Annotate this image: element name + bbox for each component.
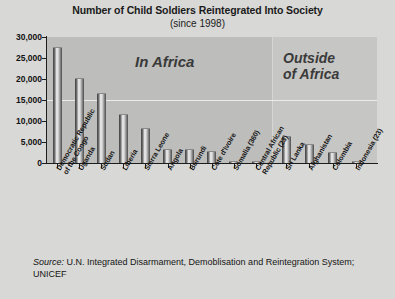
y-axis-tick-label: 0 [0,159,42,168]
category-labels: Democratic Republicof the CongoUgandaSud… [47,168,387,263]
y-axis-labels: 05,00010,00015,00020,00025,00030,000 [0,0,42,299]
y-axis-tick [42,163,47,164]
bar [97,93,106,163]
page-title: Number of Child Soldiers Reintegrated In… [0,4,395,17]
y-axis-tick-label: 15,000 [0,96,42,105]
chart-subtitle: (since 1998) [0,17,395,30]
source-note: Source: U.N. Integrated Disarmament, Dem… [33,256,383,280]
y-axis-tick-label: 5,000 [0,138,42,147]
chart-page: Number of Child Soldiers Reintegrated In… [0,0,395,299]
y-axis-tick-label: 25,000 [0,54,42,63]
source-label: Source: [33,257,64,267]
y-axis-tick-label: 20,000 [0,75,42,84]
title-block: Number of Child Soldiers Reintegrated In… [0,4,395,30]
y-axis-tick-label: 10,000 [0,117,42,126]
bar [53,47,62,164]
y-axis-tick-label: 30,000 [0,33,42,42]
source-text: U.N. Integrated Disarmament, Demoblisati… [33,257,354,279]
